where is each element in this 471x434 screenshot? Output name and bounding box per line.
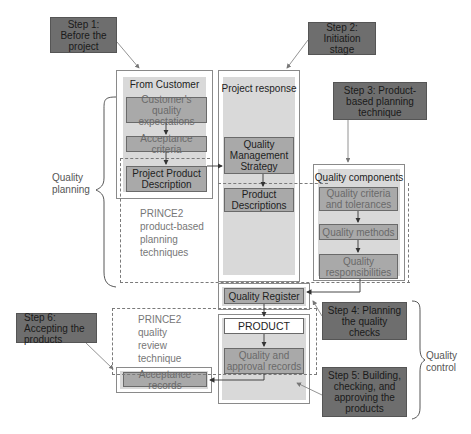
- quality-criteria-box: Quality criteria and tolerances: [319, 187, 398, 211]
- quality-control-label: Quality control: [426, 350, 466, 374]
- step-1-callout: Step 1: Before the project: [50, 17, 117, 53]
- planning-dashed-left: [120, 158, 121, 283]
- step-3-callout: Step 3: Product-based planning technique: [333, 82, 427, 120]
- step-5-label: Step 5: Building, checking, and approvin…: [325, 370, 404, 414]
- from-customer-title: From Customer: [116, 79, 213, 90]
- project-response-title: Project response: [218, 83, 300, 94]
- acceptance-criteria-box: Acceptance criteria: [126, 136, 207, 152]
- planning-dashed-top: [120, 158, 210, 159]
- project-response-panel: [218, 70, 300, 282]
- step-6-callout: Step 6: Accepting the products: [16, 313, 97, 343]
- step-2-callout: Step 2: Initiation stage: [308, 22, 376, 55]
- planning-dashed-right: [408, 183, 409, 283]
- planning-dashed-mid: [218, 183, 328, 184]
- review-technique-note: PRINCE2 quality review technique: [138, 313, 198, 365]
- quality-responsibilities-box: Quality responsibilities: [319, 254, 398, 279]
- step-3-label: Step 3: Product-based planning technique: [336, 85, 424, 118]
- planning-dashed-bottom: [120, 282, 410, 283]
- product-descriptions-box: Product Descriptions: [224, 188, 294, 212]
- step-2-label: Step 2: Initiation stage: [311, 22, 373, 55]
- quality-components-title: Quality components: [313, 172, 405, 183]
- step-4-callout: Step 4: Planning the quality checks: [322, 302, 407, 340]
- quality-management-strategy-box: Quality Management Strategy: [224, 137, 294, 174]
- customer-quality-expectations-box: Customer's quality expectations: [126, 97, 207, 123]
- quality-planning-label: Quality planning: [52, 172, 92, 196]
- quality-register-box: Quality Register: [224, 288, 304, 304]
- step-1-label: Step 1: Before the project: [53, 19, 114, 52]
- planning-techniques-note: PRINCE2 product-based planning technique…: [140, 207, 220, 259]
- step-5-callout: Step 5: Building, checking, and approvin…: [322, 367, 407, 417]
- quality-methods-box: Quality methods: [319, 224, 398, 240]
- project-product-description-box: Project Product Description: [126, 166, 207, 192]
- step-6-label: Step 6: Accepting the products: [24, 312, 94, 345]
- step-4-label: Step 4: Planning the quality checks: [325, 305, 404, 338]
